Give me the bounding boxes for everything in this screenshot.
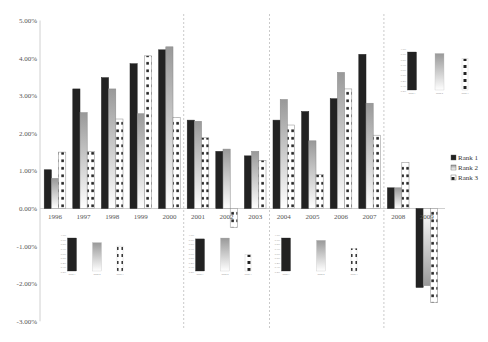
svg-text:0.8%: 0.8% bbox=[189, 243, 194, 246]
svg-text:0.6%: 0.6% bbox=[275, 253, 280, 256]
bar-rank1-2007 bbox=[359, 54, 366, 208]
bar-rank3-1996 bbox=[59, 152, 66, 208]
bar-rank1-2003 bbox=[244, 156, 251, 209]
bar-rank2-2008 bbox=[395, 188, 402, 209]
svg-text:Rank 2: Rank 2 bbox=[436, 92, 444, 95]
bar-rank1-2001 bbox=[187, 120, 194, 208]
inset-chart-2001-2003: 1.0%0.9%0.8%0.7%0.6%0.5%0.4%0.3%0.2%Rank… bbox=[189, 234, 253, 276]
bar-rank2-2006 bbox=[337, 72, 344, 208]
x-label-2008: 2008 bbox=[391, 213, 406, 221]
x-label-2006: 2006 bbox=[334, 213, 349, 221]
svg-text:0.8%: 0.8% bbox=[61, 243, 66, 246]
x-axis-labels: 1996199719981999200020012002200320042005… bbox=[48, 213, 434, 221]
x-label-2004: 2004 bbox=[277, 213, 292, 221]
bars bbox=[44, 47, 437, 303]
y-tick-label: 3.00% bbox=[19, 92, 37, 100]
svg-text:0.7%: 0.7% bbox=[275, 248, 280, 251]
y-tick-label: -3.00% bbox=[17, 318, 38, 326]
svg-text:0.6%: 0.6% bbox=[189, 253, 194, 256]
bar-rank1-1996 bbox=[44, 170, 51, 209]
y-tick-label: 5.00% bbox=[19, 17, 37, 25]
x-label-1997: 1997 bbox=[77, 213, 92, 221]
inset-chart-2004-2007: 1.0%0.9%0.8%0.7%0.6%0.5%0.4%0.3%0.2%Rank… bbox=[275, 234, 359, 276]
x-label-2001: 2001 bbox=[191, 213, 206, 221]
x-label-2009: 2009 bbox=[420, 213, 435, 221]
svg-text:Rank 3: Rank 3 bbox=[461, 92, 469, 95]
x-label-2000: 2000 bbox=[162, 213, 177, 221]
bar-rank2-1996 bbox=[51, 178, 58, 208]
svg-text:0.6%: 0.6% bbox=[61, 253, 66, 256]
x-label-2002: 2002 bbox=[220, 213, 235, 221]
bar-rank2-2002 bbox=[223, 149, 230, 208]
svg-text:Rank 3: Rank 3 bbox=[244, 273, 252, 276]
x-label-2007: 2007 bbox=[363, 213, 378, 221]
svg-text:0.3%: 0.3% bbox=[401, 85, 406, 88]
bar-rank2-2003 bbox=[252, 151, 259, 208]
bar-rank2-2001 bbox=[194, 121, 201, 208]
svg-text:Rank 2: Rank 2 bbox=[221, 273, 229, 276]
svg-text:0.9%: 0.9% bbox=[275, 239, 280, 242]
x-label-1996: 1996 bbox=[48, 213, 63, 221]
bar-rank1-2002 bbox=[216, 151, 223, 208]
bar-rank3-1997 bbox=[87, 151, 94, 208]
bar-rank3-2004 bbox=[287, 125, 294, 208]
svg-text:Rank 2: Rank 2 bbox=[458, 164, 479, 172]
svg-text:1.0%: 1.0% bbox=[275, 234, 280, 237]
svg-text:0.7%: 0.7% bbox=[61, 248, 66, 251]
legend: Rank 1Rank 2Rank 3 bbox=[451, 154, 479, 182]
bar-chart: 5.00%4.00%3.00%2.00%1.00%0.00%-1.00%-2.0… bbox=[0, 0, 488, 342]
legend-item-rank-1: Rank 1 bbox=[451, 154, 479, 162]
svg-text:0.2%: 0.2% bbox=[61, 271, 66, 274]
svg-text:1.0%: 1.0% bbox=[61, 234, 66, 237]
svg-text:Rank 3: Rank 3 bbox=[350, 273, 358, 276]
svg-text:1.0%: 1.0% bbox=[189, 234, 194, 237]
svg-text:1.0%: 1.0% bbox=[401, 48, 406, 51]
bar-rank3-2005 bbox=[316, 175, 323, 209]
svg-text:Rank 3: Rank 3 bbox=[458, 174, 479, 182]
svg-text:0.8%: 0.8% bbox=[401, 59, 406, 62]
inset-chart-1996-2000: 1.0%0.9%0.8%0.7%0.6%0.5%0.4%0.3%0.2%Rank… bbox=[61, 234, 125, 276]
bar-rank3-2007 bbox=[373, 135, 380, 208]
svg-text:Rank 1: Rank 1 bbox=[408, 92, 416, 95]
y-tick-label: 1.00% bbox=[19, 167, 37, 175]
bar-rank3-2001 bbox=[202, 138, 209, 209]
svg-text:0.2%: 0.2% bbox=[189, 271, 194, 274]
svg-text:0.3%: 0.3% bbox=[61, 266, 66, 269]
svg-text:0.4%: 0.4% bbox=[189, 262, 194, 265]
svg-text:0.9%: 0.9% bbox=[401, 53, 406, 56]
x-label-1998: 1998 bbox=[105, 213, 120, 221]
x-label-2003: 2003 bbox=[248, 213, 263, 221]
bar-rank2-2005 bbox=[309, 141, 316, 209]
bar-rank2-1999 bbox=[137, 114, 144, 209]
svg-text:Rank 1: Rank 1 bbox=[282, 273, 290, 276]
svg-text:Rank 1: Rank 1 bbox=[458, 154, 479, 162]
svg-text:0.8%: 0.8% bbox=[275, 243, 280, 246]
x-label-1999: 1999 bbox=[134, 213, 149, 221]
svg-text:0.3%: 0.3% bbox=[189, 266, 194, 269]
svg-text:0.9%: 0.9% bbox=[189, 239, 194, 242]
svg-text:Rank 2: Rank 2 bbox=[93, 273, 101, 276]
y-tick-label: 0.00% bbox=[19, 205, 37, 213]
y-tick-label: -2.00% bbox=[17, 280, 38, 288]
svg-text:0.3%: 0.3% bbox=[275, 266, 280, 269]
bar-rank1-2004 bbox=[273, 120, 280, 208]
y-tick-label: -1.00% bbox=[17, 243, 38, 251]
y-tick-label: 4.00% bbox=[19, 55, 37, 63]
svg-text:0.5%: 0.5% bbox=[189, 257, 194, 260]
svg-text:0.5%: 0.5% bbox=[401, 74, 406, 77]
bar-rank1-2005 bbox=[302, 111, 309, 208]
svg-text:0.5%: 0.5% bbox=[61, 257, 66, 260]
bar-rank2-1997 bbox=[80, 113, 87, 209]
legend-item-rank-2: Rank 2 bbox=[451, 164, 479, 172]
svg-text:0.4%: 0.4% bbox=[401, 80, 406, 83]
bar-rank2-1998 bbox=[109, 89, 116, 209]
svg-text:Rank 1: Rank 1 bbox=[68, 273, 76, 276]
bar-rank1-2000 bbox=[159, 50, 166, 209]
bar-rank3-1999 bbox=[144, 56, 151, 209]
bar-rank1-2008 bbox=[387, 188, 394, 209]
bar-rank2-2000 bbox=[166, 47, 173, 209]
bar-rank3-2000 bbox=[173, 118, 180, 209]
bar-rank1-1998 bbox=[101, 78, 108, 209]
bar-rank3-2006 bbox=[345, 89, 352, 209]
svg-text:Rank 2: Rank 2 bbox=[317, 273, 325, 276]
